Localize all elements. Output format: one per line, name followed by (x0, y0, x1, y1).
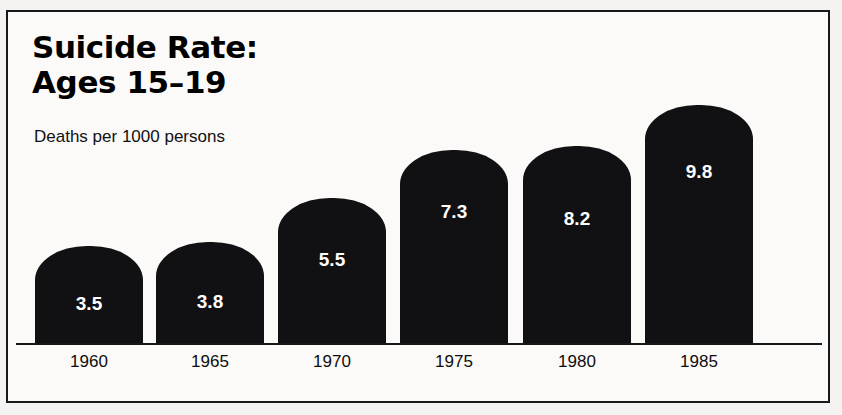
bar-value-1980: 8.2 (523, 209, 631, 228)
bar-1960: 3.5 (35, 246, 143, 343)
x-tick-label-1960: 1960 (35, 352, 143, 371)
bar-value-1970: 5.5 (278, 250, 386, 269)
x-tick-label-1975: 1975 (400, 352, 508, 371)
chart-frame: Suicide Rate: Ages 15–19 Deaths per 1000… (6, 10, 830, 403)
bar-1975: 7.3 (400, 150, 508, 343)
x-axis-baseline (16, 343, 822, 345)
bar-value-1985: 9.8 (645, 162, 753, 181)
x-tick-label-1970: 1970 (278, 352, 386, 371)
plot-area: 3.5 1960 3.8 1965 5.5 1970 7.3 (8, 12, 828, 401)
bar-value-1975: 7.3 (400, 202, 508, 221)
bar-1970: 5.5 (278, 198, 386, 343)
bar-1980: 8.2 (523, 146, 631, 343)
bar-1985: 9.8 (645, 105, 753, 343)
x-tick-label-1985: 1985 (645, 352, 753, 371)
bar-1965: 3.8 (156, 242, 264, 343)
bar-value-1960: 3.5 (35, 294, 143, 313)
chart-page: Suicide Rate: Ages 15–19 Deaths per 1000… (0, 0, 842, 415)
x-tick-label-1965: 1965 (156, 352, 264, 371)
bar-value-1965: 3.8 (156, 292, 264, 311)
x-tick-label-1980: 1980 (523, 352, 631, 371)
